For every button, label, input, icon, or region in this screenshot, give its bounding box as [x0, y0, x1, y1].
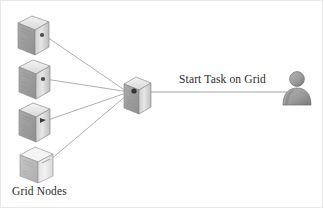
link-node3-to-hub	[45, 93, 126, 121]
hub-indicator	[131, 88, 136, 93]
server2-indicator	[41, 77, 45, 81]
connector-lines-layer	[44, 35, 287, 160]
diagram-canvas: Start Task on Grid Grid Nodes	[0, 0, 324, 209]
link-node2-to-hub	[45, 79, 126, 92]
grid-hub-server[interactable]	[124, 77, 151, 114]
task-flow-label: Start Task on Grid	[179, 73, 266, 85]
user-person-icon[interactable]	[283, 72, 311, 105]
diagram-graphics	[0, 0, 324, 209]
grid-node-server-4[interactable]	[20, 147, 53, 183]
grid-node-server-1[interactable]	[18, 16, 49, 55]
server1-indicator	[40, 33, 44, 37]
user-head	[290, 72, 305, 87]
link-node4-to-hub	[50, 95, 127, 160]
link-node1-to-hub	[44, 35, 126, 91]
grid-nodes-group-label: Grid Nodes	[12, 185, 67, 197]
grid-node-server-3[interactable]	[19, 103, 50, 142]
grid-node-server-2[interactable]	[19, 60, 50, 99]
